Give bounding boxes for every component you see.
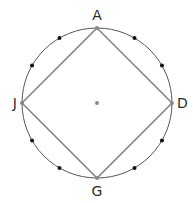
- division-point: [160, 139, 164, 143]
- division-point: [133, 36, 137, 40]
- vertex-point-d: [170, 101, 174, 105]
- vertex-point-g: [95, 176, 99, 180]
- center-point: [95, 101, 99, 105]
- division-point: [133, 166, 137, 170]
- division-point: [160, 64, 164, 68]
- vertex-label-a: A: [92, 7, 102, 23]
- circle-square-diagram: A D G J: [0, 0, 193, 203]
- vertex-label-g: G: [92, 183, 103, 199]
- division-point: [30, 139, 34, 143]
- vertex-label-j: J: [12, 95, 17, 111]
- division-point: [58, 166, 62, 170]
- division-point: [30, 64, 34, 68]
- vertex-point-j: [20, 101, 24, 105]
- vertex-point-a: [95, 26, 99, 30]
- vertex-label-d: D: [177, 95, 188, 111]
- division-point: [58, 36, 62, 40]
